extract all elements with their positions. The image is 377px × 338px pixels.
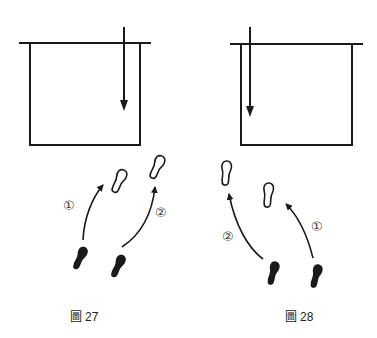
fig27-caption-prefix: 圖 xyxy=(70,310,82,324)
fig28-step-label-2: ② xyxy=(222,229,234,244)
fig27-step-label-1: ① xyxy=(63,198,75,213)
fig28-footprint-solid-1 xyxy=(265,260,281,286)
fig27-step-arrow-2 xyxy=(122,187,155,247)
fig28-footprint-outline-2 xyxy=(262,183,274,208)
fig28-step-arrow-1 xyxy=(286,204,313,258)
fig27-footprint-solid-1 xyxy=(71,245,90,271)
fig28-footprint-outline-1 xyxy=(220,161,232,186)
fig27-footprint-outline-2 xyxy=(148,154,167,180)
fig28-entry-arrow xyxy=(246,27,254,117)
fig27-step-arrow-1 xyxy=(83,185,103,240)
fig27-step-label-2: ② xyxy=(155,205,167,220)
fig27-caption-number: 27 xyxy=(85,310,98,324)
fig27-footprint-solid-2 xyxy=(109,253,128,279)
fig27-caption: 圖27 xyxy=(70,307,98,324)
fig27-entry-arrow xyxy=(120,27,128,111)
fig28-footprint-solid-2 xyxy=(308,263,324,289)
diagram-canvas xyxy=(0,0,377,338)
fig28-caption-number: 28 xyxy=(300,310,313,324)
fig28-step-label-1: ① xyxy=(311,219,323,234)
fig27-footprint-outline-1 xyxy=(110,168,129,194)
fig28-caption: 圖28 xyxy=(285,307,313,324)
fig28-caption-prefix: 圖 xyxy=(285,310,297,324)
fig27-box xyxy=(19,43,151,145)
fig28-step-arrow-2 xyxy=(229,194,263,259)
